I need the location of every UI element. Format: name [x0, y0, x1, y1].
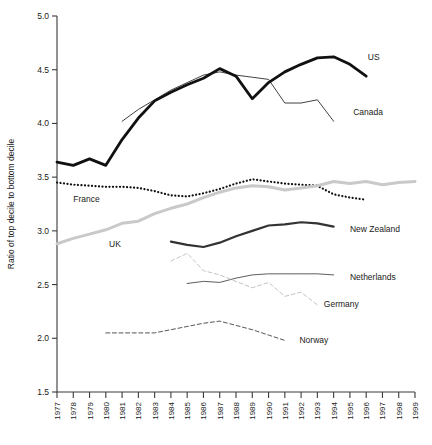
series-label-norway: Norway [299, 335, 329, 345]
x-tick-label: 1982 [134, 401, 143, 419]
series-label-new-zealand: New Zealand [350, 224, 400, 234]
x-tick-label: 1993 [313, 401, 322, 419]
x-tick-label: 1980 [102, 401, 111, 419]
series-line-norway [106, 321, 285, 340]
x-tick-label: 1983 [151, 401, 160, 419]
y-tick-label: 2.0 [37, 333, 49, 343]
y-tick-label: 2.5 [37, 280, 49, 290]
x-tick-label: 1997 [378, 401, 387, 419]
series-label-uk: UK [109, 239, 121, 249]
y-tick-label: 1.5 [37, 387, 49, 397]
y-axis-ticks: 5.04.54.03.53.02.52.01.5 [37, 11, 57, 397]
y-tick-label: 4.0 [37, 118, 49, 128]
x-tick-label: 1989 [248, 401, 257, 419]
series-line-france [57, 179, 366, 199]
series-lines [57, 57, 415, 341]
plot-area: 5.04.54.03.53.02.52.01.5 197719781979198… [6, 11, 420, 420]
series-labels: USCanadaFranceUKNew ZealandNetherlandsGe… [73, 52, 400, 346]
x-tick-label: 1981 [118, 401, 127, 419]
x-tick-label: 1996 [362, 401, 371, 419]
series-label-germany: Germany [324, 299, 360, 309]
series-line-uk [57, 181, 415, 243]
x-tick-label: 1986 [199, 401, 208, 419]
x-tick-label: 1984 [167, 401, 176, 419]
x-tick-label: 1979 [86, 401, 95, 419]
series-line-canada [122, 72, 334, 121]
x-tick-label: 1990 [265, 401, 274, 419]
x-tick-label: 1987 [216, 401, 225, 419]
y-axis-title-text: Ratio of top decile to bottom decile [6, 139, 16, 270]
y-tick-label: 3.0 [37, 226, 49, 236]
series-label-us: US [368, 52, 380, 62]
x-tick-label: 1992 [297, 401, 306, 419]
x-tick-label: 1998 [395, 401, 404, 419]
line-chart: 5.04.54.03.53.02.52.01.5 197719781979198… [0, 0, 432, 445]
x-tick-label: 1988 [232, 401, 241, 419]
series-line-new-zealand [171, 222, 334, 247]
series-label-canada: Canada [353, 107, 383, 117]
series-line-germany [171, 253, 317, 305]
y-tick-label: 4.5 [37, 65, 49, 75]
y-axis-title: Ratio of top decile to bottom decile [6, 139, 16, 270]
x-tick-label: 1977 [53, 401, 62, 419]
x-tick-label: 1985 [183, 401, 192, 419]
series-label-netherlands: Netherlands [350, 272, 396, 282]
x-axis-ticks: 1977197819791980198119821983198419851986… [53, 392, 420, 420]
chart-container: 5.04.54.03.53.02.52.01.5 197719781979198… [0, 0, 432, 445]
x-tick-label: 1995 [346, 401, 355, 419]
series-line-netherlands [187, 274, 333, 284]
x-tick-label: 1978 [69, 401, 78, 419]
x-tick-label: 1991 [281, 401, 290, 419]
y-tick-label: 3.5 [37, 172, 49, 182]
x-tick-label: 1999 [411, 401, 420, 419]
series-label-france: France [73, 194, 100, 204]
x-tick-label: 1994 [330, 401, 339, 419]
y-tick-label: 5.0 [37, 11, 49, 21]
